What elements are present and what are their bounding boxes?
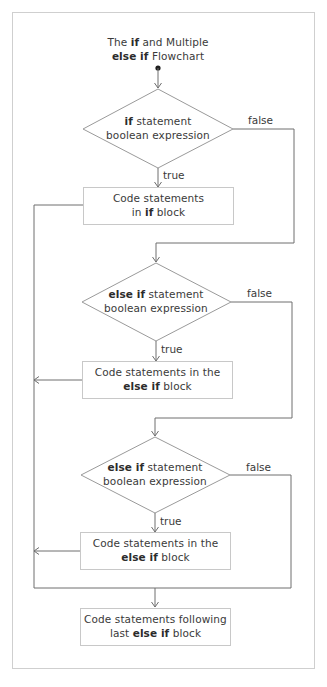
decision-elseif-1-line-1: else if statement bbox=[86, 288, 226, 302]
block-following-line-2: last else if block bbox=[80, 627, 231, 641]
decision-elseif-1-line-2: boolean expression bbox=[86, 302, 226, 316]
bold-keyword: if bbox=[131, 36, 139, 48]
bold-keyword: else if bbox=[121, 551, 158, 563]
text-run: in bbox=[132, 206, 145, 218]
block-elseif-2-line-2: else if block bbox=[80, 551, 231, 565]
block-elseif-2-line-1: Code statements in the bbox=[80, 537, 231, 551]
block-elseif-1-label: Code statements in the else if block bbox=[82, 366, 233, 393]
text-run: boolean expression bbox=[103, 475, 207, 487]
decision-if-line-1: if statement bbox=[88, 115, 228, 129]
block-if-line-1: Code statements bbox=[83, 192, 234, 206]
title-line-1: The if and Multiple bbox=[88, 36, 228, 50]
text-run: boolean expression bbox=[104, 302, 208, 314]
bold-keyword: if bbox=[125, 115, 133, 127]
text-run: Flowchart bbox=[149, 50, 205, 62]
text-run: block bbox=[153, 206, 185, 218]
block-following-line-1: Code statements following bbox=[80, 613, 231, 627]
bold-keyword: else if bbox=[112, 50, 149, 62]
decision-elseif-2-label: else if statement boolean expression bbox=[85, 461, 225, 488]
bold-keyword: else if bbox=[133, 627, 170, 639]
text-run: block bbox=[169, 627, 201, 639]
text-run: boolean expression bbox=[106, 129, 210, 141]
bold-keyword: else if bbox=[123, 380, 160, 392]
bold-keyword: else if bbox=[108, 288, 145, 300]
block-following-label: Code statements following last else if b… bbox=[80, 613, 231, 640]
text-run: Code statements bbox=[113, 192, 204, 204]
text-run: Code statements following bbox=[84, 613, 227, 625]
block-elseif-1-line-1: Code statements in the bbox=[82, 366, 233, 380]
flowchart-figure: The if and Multiple else if Flowchart if… bbox=[0, 0, 327, 687]
flowchart-title: The if and Multiple else if Flowchart bbox=[88, 36, 228, 63]
edge-label-elseif-2-true: true bbox=[160, 515, 182, 527]
text-run: Code statements in the bbox=[93, 537, 218, 549]
block-elseif-1-line-2: else if block bbox=[82, 380, 233, 394]
text-run: block bbox=[160, 380, 192, 392]
text-run: statement bbox=[133, 115, 191, 127]
text-run: statement bbox=[145, 288, 203, 300]
decision-if-line-2: boolean expression bbox=[88, 129, 228, 143]
text-run: Code statements in the bbox=[95, 366, 220, 378]
text-run: last bbox=[110, 627, 133, 639]
decision-elseif-2-line-2: boolean expression bbox=[85, 475, 225, 489]
block-if-line-2: in if block bbox=[83, 206, 234, 220]
decision-if-label: if statement boolean expression bbox=[88, 115, 228, 142]
edge-label-if-false: false bbox=[248, 114, 273, 126]
edge-label-elseif-1-false: false bbox=[247, 287, 272, 299]
edge-label-elseif-1-true: true bbox=[161, 343, 183, 355]
edge-label-if-true: true bbox=[163, 169, 185, 181]
block-elseif-2-label: Code statements in the else if block bbox=[80, 537, 231, 564]
title-line-2: else if Flowchart bbox=[88, 50, 228, 64]
edge-label-elseif-2-false: false bbox=[246, 461, 271, 473]
decision-elseif-2-line-1: else if statement bbox=[85, 461, 225, 475]
text-run: The bbox=[107, 36, 130, 48]
text-run: block bbox=[158, 551, 190, 563]
bold-keyword: else if bbox=[107, 461, 144, 473]
text-run: and Multiple bbox=[139, 36, 208, 48]
block-if-label: Code statements in if block bbox=[83, 192, 234, 219]
decision-elseif-1-label: else if statement boolean expression bbox=[86, 288, 226, 315]
text-run: statement bbox=[144, 461, 202, 473]
